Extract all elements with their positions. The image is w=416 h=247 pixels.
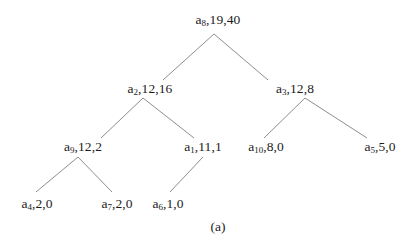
tree-node-a8: a8,19,40 — [196, 13, 241, 27]
node-subscript-index: 1 — [190, 145, 195, 155]
node-values: ,12,16 — [138, 81, 172, 96]
tree-node-a6: a6,1,0 — [152, 197, 183, 211]
tree-edge-a9-a4 — [36, 157, 78, 192]
tree-node-a4: a4,2,0 — [21, 197, 52, 211]
node-values: ,11,1 — [195, 139, 222, 154]
tree-node-a1: a1,11,1 — [184, 140, 222, 154]
tree-edge-a8-a2 — [163, 34, 214, 80]
tree-edge-layer — [0, 0, 416, 247]
node-subscript-index: 4 — [27, 202, 32, 212]
node-values: ,12,8 — [287, 81, 315, 96]
tree-node-a5: a5,5,0 — [364, 140, 395, 154]
tree-edge-a2-a1 — [143, 98, 194, 138]
tree-node-a7: a7,2,0 — [101, 197, 132, 211]
tree-edge-a2-a9 — [101, 98, 143, 138]
node-subscript-index: 3 — [282, 87, 287, 97]
tree-node-a9: a9,12,2 — [64, 140, 102, 154]
node-values: ,8,0 — [263, 139, 284, 154]
node-values: ,2,0 — [32, 196, 53, 211]
node-values: ,19,40 — [206, 12, 240, 27]
tree-edge-a1-a6 — [170, 157, 203, 192]
node-subscript-index: 10 — [254, 145, 263, 155]
node-subscript-index: 7 — [107, 202, 112, 212]
tree-edge-a3-a5 — [305, 98, 367, 138]
node-values: ,1,0 — [163, 196, 184, 211]
tree-node-a10: a10,8,0 — [248, 140, 284, 154]
tree-edge-a3-a10 — [264, 98, 305, 138]
node-subscript-index: 6 — [158, 202, 163, 212]
node-values: ,5,0 — [375, 139, 396, 154]
figure-caption: (a) — [211, 220, 226, 234]
node-subscript-index: 2 — [134, 87, 139, 97]
tree-edge-a9-a7 — [78, 157, 112, 192]
tree-edge-a8-a3 — [214, 34, 268, 80]
tree-node-a2: a2,12,16 — [128, 82, 173, 96]
tree-diagram-figure: a8,19,40a2,12,16a3,12,8a9,12,2a1,11,1a10… — [0, 0, 416, 247]
node-subscript-index: 9 — [70, 145, 75, 155]
node-subscript-index: 8 — [202, 18, 207, 28]
node-subscript-index: 5 — [370, 145, 375, 155]
node-values: ,12,2 — [75, 139, 103, 154]
tree-node-a3: a3,12,8 — [276, 82, 314, 96]
node-values: ,2,0 — [112, 196, 133, 211]
